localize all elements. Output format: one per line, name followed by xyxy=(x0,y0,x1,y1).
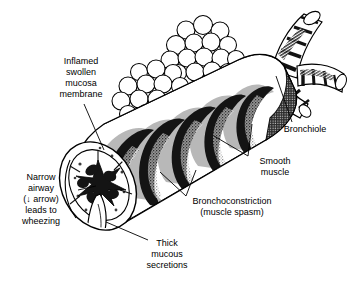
label-narrow-airway-wheezing: Narrow airway (↓ arrow) leads to wheezin… xyxy=(4,172,78,227)
asthma-airway-diagram: Inflamed swollen mucosa membrane Narrow … xyxy=(0,0,348,283)
label-bronchiole: Bronchiole xyxy=(272,124,338,135)
label-bronchoconstriction-muscle-spasm: Bronchoconstriction (muscle spasm) xyxy=(172,196,292,218)
label-smooth-muscle: Smooth muscle xyxy=(244,156,306,178)
label-inflamed-swollen-mucosa-membrane: Inflamed swollen mucosa membrane xyxy=(42,56,120,100)
label-thick-mucous-secretions: Thick mucous secretions xyxy=(128,238,206,271)
